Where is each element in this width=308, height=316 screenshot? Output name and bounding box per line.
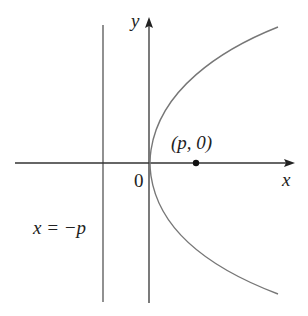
y-axis-label: y bbox=[129, 10, 140, 31]
parabola-curve bbox=[150, 27, 278, 294]
parabola-diagram: y x 0 (p, 0) x = −p bbox=[0, 0, 308, 316]
focus-point bbox=[193, 160, 199, 166]
directrix-label: x = −p bbox=[32, 217, 86, 238]
focus-label: (p, 0) bbox=[171, 132, 212, 154]
x-axis-label: x bbox=[281, 169, 291, 190]
origin-label: 0 bbox=[134, 170, 144, 191]
diagram-svg: y x 0 (p, 0) x = −p bbox=[0, 0, 308, 316]
